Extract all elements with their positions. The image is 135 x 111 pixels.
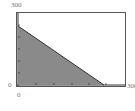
chart-plot — [0, 0, 135, 111]
